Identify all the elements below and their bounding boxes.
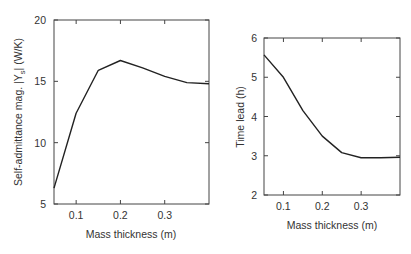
y-tick-labels: 5101520: [34, 14, 46, 210]
plot-frame: [264, 38, 400, 195]
x-tick-label: 0.1: [276, 200, 291, 212]
x-tick-labels: 0.10.20.3: [276, 200, 368, 212]
x-axis-label: Mass thickness (m): [86, 228, 176, 240]
y-tick-label: 10: [34, 137, 46, 149]
y-tick-label: 6: [251, 32, 257, 44]
y-axis-label-post: | (W/K): [12, 38, 24, 70]
y-tick-label: 4: [251, 111, 257, 123]
y-tick-label: 15: [34, 75, 46, 87]
time-lead-chart: 0.10.20.3 23456 Mass thickness (m) Time …: [234, 32, 400, 231]
x-tick-label: 0.3: [157, 209, 172, 221]
y-axis-label: Self-admittance mag. |Ys| (W/K): [12, 38, 27, 186]
ticks: [264, 38, 400, 195]
data-line: [54, 61, 209, 189]
data-line: [264, 55, 400, 158]
x-tick-label: 0.3: [354, 200, 369, 212]
y-tick-label: 3: [251, 150, 257, 162]
x-axis-label: Mass thickness (m): [287, 219, 377, 231]
y-tick-label: 20: [34, 14, 46, 26]
self-admittance-chart: 0.10.20.3 5101520 Mass thickness (m) Sel…: [12, 14, 209, 240]
x-tick-label: 0.2: [315, 200, 330, 212]
y-tick-label: 2: [251, 189, 257, 201]
x-tick-label: 0.2: [113, 209, 128, 221]
figure: 0.10.20.3 5101520 Mass thickness (m) Sel…: [0, 0, 411, 254]
x-tick-labels: 0.10.20.3: [69, 209, 172, 221]
y-axis-label: Time lead (h): [234, 86, 246, 147]
y-tick-labels: 23456: [251, 32, 257, 201]
y-tick-label: 5: [40, 198, 46, 210]
x-tick-label: 0.1: [69, 209, 84, 221]
y-tick-label: 5: [251, 71, 257, 83]
y-axis-label-pre: Self-admittance mag. |Y: [12, 74, 24, 186]
